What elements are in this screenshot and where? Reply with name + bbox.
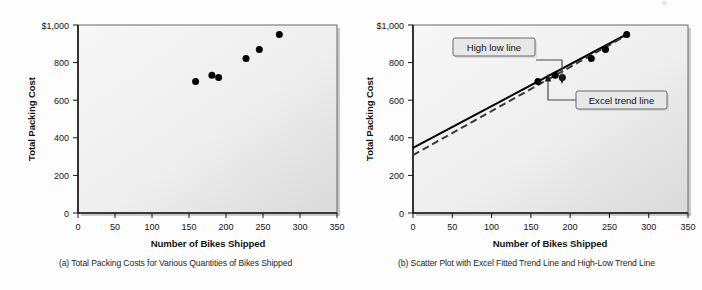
x-tick-label: 250 xyxy=(255,222,270,232)
x-axis-title: Number of Bikes Shipped xyxy=(493,238,608,249)
data-point xyxy=(623,31,630,38)
panel-b-plot: $1,000 800 600 400 200 0 0 50 100 xyxy=(351,0,702,290)
y-axis-tick-labels: $1,000 800 600 400 200 0 xyxy=(41,21,69,219)
panel-b-caption: (b) Scatter Plot with Excel Fitted Trend… xyxy=(351,258,702,268)
data-point xyxy=(588,55,595,62)
x-axis-tick-labels: 0 50 100 150 200 250 300 350 xyxy=(75,222,344,232)
y-tick-label: $1,000 xyxy=(376,21,404,31)
x-tick-label: 200 xyxy=(563,222,578,232)
y-axis-title: Total Packing Cost xyxy=(364,76,375,161)
y-tick-label: 200 xyxy=(54,171,69,181)
x-tick-label: 150 xyxy=(181,222,196,232)
callout-label: High low line xyxy=(467,42,521,53)
y-tick-label: 400 xyxy=(389,133,404,143)
data-point xyxy=(552,72,559,79)
data-point xyxy=(192,78,199,85)
y-tick-label: 400 xyxy=(54,133,69,143)
x-tick-label: 300 xyxy=(641,222,656,232)
panel-a: $1,000 800 600 400 200 0 0 50 xyxy=(0,0,351,290)
y-axis-title: Total Packing Cost xyxy=(26,76,37,161)
x-tick-label: 350 xyxy=(329,222,344,232)
x-tick-label: 250 xyxy=(602,222,617,232)
y-tick-label: 600 xyxy=(389,96,404,106)
x-tick-label: 100 xyxy=(484,222,499,232)
y-tick-label: 0 xyxy=(64,209,69,219)
x-tick-label: 50 xyxy=(110,222,120,232)
y-tick-label: 200 xyxy=(389,171,404,181)
y-tick-label: 800 xyxy=(54,58,69,68)
panel-b: $1,000 800 600 400 200 0 0 50 100 xyxy=(351,0,702,290)
panel-a-plot: $1,000 800 600 400 200 0 0 50 xyxy=(0,0,351,290)
y-tick-label: 600 xyxy=(54,96,69,106)
data-point xyxy=(276,31,283,38)
x-tick-label: 100 xyxy=(144,222,159,232)
x-tick-label: 200 xyxy=(218,222,233,232)
y-tick-label: 0 xyxy=(399,209,404,219)
data-point xyxy=(602,46,609,53)
data-point xyxy=(534,78,541,85)
data-point xyxy=(208,72,215,79)
callout-label: Excel trend line xyxy=(589,95,655,106)
x-tick-label: 350 xyxy=(680,222,695,232)
x-axis-tick-labels: 0 50 100 150 200 250 300 350 xyxy=(410,222,695,232)
data-point xyxy=(256,46,263,53)
x-axis-title: Number of Bikes Shipped xyxy=(151,238,266,249)
x-tick-label: 0 xyxy=(75,222,80,232)
y-tick-label: 800 xyxy=(389,58,404,68)
panel-a-caption: (a) Total Packing Costs for Various Quan… xyxy=(0,258,351,268)
data-point xyxy=(243,55,250,62)
figure-container: $1,000 800 600 400 200 0 0 50 xyxy=(0,0,702,290)
y-tick-label: $1,000 xyxy=(41,21,69,31)
x-tick-label: 150 xyxy=(523,222,538,232)
plot-area-background xyxy=(78,25,337,213)
x-tick-label: 300 xyxy=(292,222,307,232)
y-axis-tick-labels: $1,000 800 600 400 200 0 xyxy=(376,21,404,219)
scan-artifact-mark xyxy=(662,1,667,5)
x-tick-label: 50 xyxy=(447,222,457,232)
data-point xyxy=(215,74,222,81)
x-tick-label: 0 xyxy=(410,222,415,232)
